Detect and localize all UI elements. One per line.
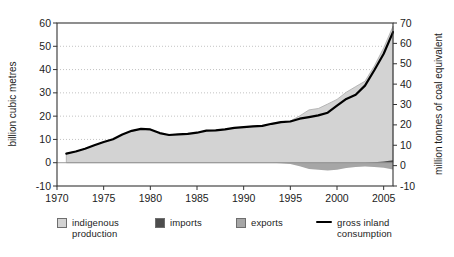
tick-label: 0 [45, 156, 51, 168]
tick-label: 2005 [372, 192, 396, 204]
tick-label: 50 [400, 57, 412, 69]
plot-area: -100102030405060-10010203040506070197019… [36, 17, 416, 205]
left-axis-title: billion cubic metres [7, 61, 18, 146]
tick-label: 20 [400, 118, 412, 130]
tick-label: 30 [39, 86, 51, 98]
legend: indigenous production imports exports gr… [0, 214, 454, 256]
tick-label: 60 [39, 17, 51, 29]
tick-label: 10 [400, 139, 412, 151]
tick-label: -10 [36, 180, 51, 192]
legend-item-indigenous-production: indigenous production [57, 217, 134, 239]
legend-label: exports [251, 217, 283, 228]
legend-label: gross inland consumption [337, 217, 407, 239]
right-axis-title: million tonnes of coal equivalent [433, 33, 444, 175]
tick-label: 40 [39, 63, 51, 75]
tick-label: 1975 [92, 192, 116, 204]
chart-canvas: -100102030405060-10010203040506070197019… [0, 0, 454, 212]
legend-item-exports: exports [236, 217, 283, 228]
indigenous-production-swatch [57, 218, 67, 228]
consumption-line-swatch [316, 221, 332, 223]
tick-label: 20 [39, 110, 51, 122]
exports-swatch [236, 218, 246, 228]
tick-label: 1970 [45, 192, 69, 204]
tick-label: -10 [400, 180, 415, 192]
tick-label: 1980 [139, 192, 163, 204]
tick-label: 50 [39, 40, 51, 52]
gas-production-consumption-figure: -100102030405060-10010203040506070197019… [0, 0, 454, 257]
legend-item-gross-inland-consumption: gross inland consumption [316, 217, 407, 239]
legend-label: imports [170, 217, 202, 228]
tick-label: 40 [400, 78, 412, 90]
legend-item-imports: imports [155, 217, 202, 228]
tick-label: 0 [400, 159, 406, 171]
tick-label: 2000 [325, 192, 349, 204]
tick-label: 1995 [279, 192, 303, 204]
tick-label: 60 [400, 37, 412, 49]
legend-label: indigenous production [72, 217, 134, 239]
imports-swatch [155, 218, 165, 228]
tick-label: 70 [400, 17, 412, 29]
tick-label: 1990 [232, 192, 256, 204]
tick-label: 30 [400, 98, 412, 110]
tick-label: 1985 [185, 192, 209, 204]
tick-label: 10 [39, 133, 51, 145]
